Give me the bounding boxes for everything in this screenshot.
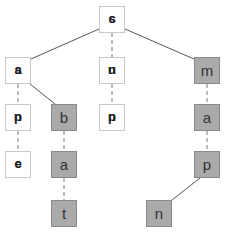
node-overlapped-label: cs [106, 12, 118, 28]
edge-L1a-b [30, 84, 55, 104]
node-overlapped-label: un [106, 63, 118, 79]
node-glyph: n [106, 62, 118, 77]
node-glyph: s [12, 62, 24, 77]
trie-node-root: cs [99, 6, 125, 33]
node-overlapped-label: pn [12, 110, 24, 126]
trie-node-n: n [146, 200, 172, 227]
node-label: p [203, 156, 211, 173]
node-glyph: c [12, 156, 24, 171]
node-label: a [203, 109, 211, 126]
trie-node-L1a: as [5, 57, 31, 84]
edge-root-m [125, 29, 194, 59]
node-overlapped-label: pn [106, 110, 118, 126]
trie-node-L2c: pn [99, 104, 125, 131]
trie-node-m: m [194, 57, 220, 84]
node-label: a [60, 156, 68, 173]
node-overlapped-label: as [12, 63, 24, 79]
trie-node-L1b: un [99, 57, 125, 84]
trie-node-t: t [51, 200, 77, 227]
node-glyph: s [106, 11, 118, 26]
trie-node-L3a: ec [5, 151, 31, 178]
node-label: t [62, 205, 66, 222]
trie-node-a1: a [51, 151, 77, 178]
trie-node-p: p [194, 151, 220, 178]
node-overlapped-label: ec [12, 157, 24, 173]
node-label: b [60, 109, 68, 126]
trie-node-L2a: pn [5, 104, 31, 131]
node-glyph: n [12, 109, 24, 124]
edge-p-n [172, 178, 200, 200]
node-glyph: n [106, 109, 118, 124]
trie-node-b: b [51, 104, 77, 131]
node-label: n [155, 205, 163, 222]
trie-node-a2: a [194, 104, 220, 131]
node-label: m [201, 62, 214, 79]
edge-root-L1a [31, 29, 99, 59]
